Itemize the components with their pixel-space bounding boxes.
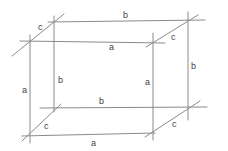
edge-front-top (20, 41, 165, 43)
label-back-right-vertical: b (191, 62, 196, 71)
label-front-top: a (109, 43, 114, 52)
edge-top-right-depth (146, 15, 198, 47)
cuboid-lines (0, 0, 228, 151)
label-bottom-right-depth: c (172, 120, 177, 129)
label-top-left-depth: c (38, 23, 43, 32)
cuboid-diagram: b c a c b a a b b c a c (0, 0, 228, 151)
label-front-bottom: a (91, 139, 96, 148)
label-back-top: b (123, 11, 128, 20)
label-back-left-vertical: b (58, 76, 63, 85)
label-top-right-depth: c (171, 33, 176, 42)
label-back-bottom: b (99, 97, 104, 106)
edge-top-left-depth (12, 14, 64, 56)
edge-back-bottom (40, 107, 207, 108)
label-front-left-vertical: a (22, 86, 27, 95)
label-bottom-left-depth: c (44, 122, 49, 131)
edge-back-top (48, 20, 205, 22)
edge-front-bottom (22, 133, 155, 136)
label-front-right-vertical: a (145, 78, 150, 87)
